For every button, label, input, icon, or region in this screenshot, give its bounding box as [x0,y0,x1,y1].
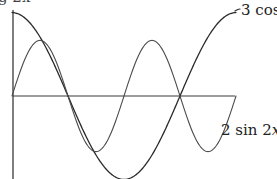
figure-caption-fragment: g 2x [0,0,30,5]
sin-label-text: 2 sin 2 [221,121,272,139]
graph-canvas [0,0,277,179]
cos-label-text: 3 cos [241,1,277,19]
cos-label-leader [235,9,240,11]
cos-curve-label: 3 cos x [241,3,277,18]
sin-curve-label: 2 sin 2x [221,123,277,138]
sin-label-variable: x [272,121,277,139]
